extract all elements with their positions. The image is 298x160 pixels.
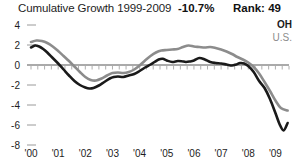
x-tick-label: '09 xyxy=(269,148,282,159)
x-tick-label: '03 xyxy=(106,148,119,159)
plot-area: 420-2-4-6-8 '00'01'02'03'04'05'06'07'08'… xyxy=(0,17,298,160)
y-tick-label: -8 xyxy=(11,140,20,151)
x-tick-label: '01 xyxy=(52,148,65,159)
series-lines xyxy=(31,40,288,130)
y-tick-label: -4 xyxy=(11,100,20,111)
x-tick-label: '08 xyxy=(242,148,255,159)
growth-value: -10.7% xyxy=(178,2,214,14)
rank-badge: Rank: 49 xyxy=(233,2,281,14)
x-tick-label: '02 xyxy=(79,148,92,159)
line-chart-svg: 420-2-4-6-8 '00'01'02'03'04'05'06'07'08'… xyxy=(0,17,298,160)
cumulative-growth-chart-card: Cumulative Growth 1999-2009 -10.7% Rank:… xyxy=(0,0,298,160)
y-tick-label: 2 xyxy=(14,40,20,51)
y-tick-label: 0 xyxy=(14,60,20,71)
y-tick-label: -2 xyxy=(11,80,20,91)
x-tick-label: '07 xyxy=(215,148,228,159)
x-tick-label: '00 xyxy=(24,148,37,159)
chart-header: Cumulative Growth 1999-2009 -10.7% Rank:… xyxy=(0,0,298,17)
x-axis-tick-labels: '00'01'02'03'04'05'06'07'08'09 xyxy=(24,148,282,159)
series-line-oh xyxy=(31,45,288,130)
x-tick-label: '06 xyxy=(187,148,200,159)
page-title: Cumulative Growth 1999-2009 xyxy=(18,2,171,14)
y-tick-label: -6 xyxy=(11,120,20,131)
y-tick-label: 4 xyxy=(14,20,20,31)
x-tick-label: '04 xyxy=(133,148,146,159)
y-axis-tick-labels: 420-2-4-6-8 xyxy=(11,20,20,151)
x-tick-label: '05 xyxy=(160,148,173,159)
